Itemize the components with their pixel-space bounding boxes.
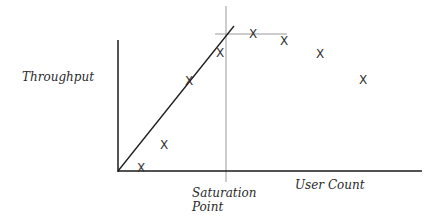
saturation-label-line2: Point: [192, 200, 223, 214]
data-point-1: X: [137, 162, 145, 174]
data-point-5: X: [249, 28, 257, 40]
data-point-3: X: [185, 75, 193, 87]
data-point-6: X: [280, 35, 288, 47]
x-axis-label: User Count: [295, 178, 365, 192]
data-point-4: X: [216, 47, 224, 59]
throughput-diagram: Throughput User Count Saturation Point X…: [0, 0, 438, 224]
saturation-label-line1: Saturation: [192, 186, 256, 200]
data-point-2: X: [160, 139, 168, 151]
data-point-7: X: [316, 48, 324, 60]
y-axis-label: Throughput: [22, 70, 94, 84]
data-point-8: X: [359, 74, 367, 86]
